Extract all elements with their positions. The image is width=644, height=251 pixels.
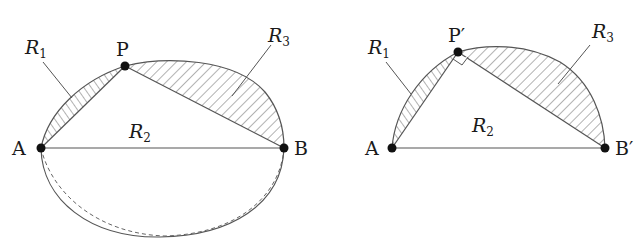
label-p: P <box>116 38 129 60</box>
chord-a-p-prime <box>392 52 458 148</box>
label-r1-right: R1 <box>367 36 390 61</box>
chord-a-p <box>41 66 125 148</box>
label-b-prime: B′ <box>615 137 633 159</box>
point-b <box>280 144 289 153</box>
leader-r1 <box>43 62 72 98</box>
point-p <box>121 62 130 71</box>
left-figure: A B P R1 R2 R3 <box>11 24 308 237</box>
label-r3-right: R3 <box>591 20 614 45</box>
diagram-canvas: A B P R1 R2 R3 A B′ P′ R1 R2 R3 <box>0 0 644 251</box>
right-angle-mark <box>453 57 468 65</box>
label-r2-right: R2 <box>471 114 494 139</box>
label-r2: R2 <box>128 120 151 145</box>
label-a: A <box>11 137 26 159</box>
point-b-prime <box>601 144 610 153</box>
point-p-prime <box>454 48 463 57</box>
label-r1: R1 <box>24 36 47 61</box>
label-r3: R3 <box>267 24 290 49</box>
point-a-right <box>388 144 397 153</box>
lower-arc-solid <box>41 148 284 237</box>
label-a-right: A <box>364 137 379 159</box>
label-p-prime: P′ <box>448 24 465 46</box>
point-a <box>37 144 46 153</box>
right-figure: A B′ P′ R1 R2 R3 <box>364 20 633 159</box>
lower-arc-dashed <box>41 148 284 236</box>
label-b: B <box>294 137 308 159</box>
leader-r1-right <box>386 62 411 94</box>
